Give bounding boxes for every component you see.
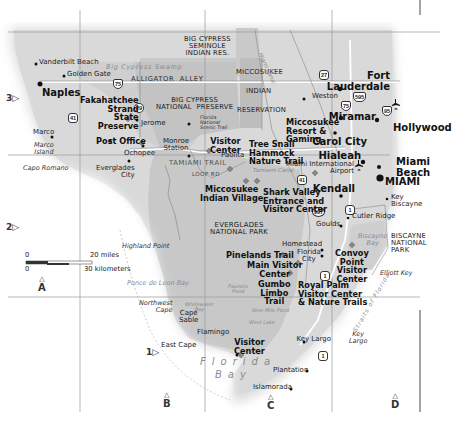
place-cutler-ridge: Cutler Ridge — [352, 213, 395, 220]
label-alligator-alley: ALLIGATOR ALLEY — [131, 76, 203, 83]
grid-row-marker-icon: ▷ — [12, 93, 19, 103]
label-reservation: RESERVATION — [237, 107, 286, 114]
label-ponce-de-leon-bay: Ponce de Leon Bay — [127, 280, 189, 287]
place-key-largo-town: Key Largo — [296, 336, 331, 343]
place-marco: Marco — [33, 129, 54, 136]
shield-us1-keys: 1 — [318, 351, 328, 361]
poi-convoy-point[interactable]: Convoy Point Visitor Center — [335, 249, 369, 283]
city-hollywood: Hollywood — [393, 123, 452, 134]
scale-zero-km: 0 — [25, 266, 29, 273]
place-goulds: Goulds — [316, 221, 340, 228]
place-plantation: Plantation — [273, 367, 308, 374]
poi-pinelands-trail[interactable]: Pinelands Trail — [226, 251, 294, 260]
label-west-lake: West Lake — [249, 320, 275, 325]
place-vanderbilt-beach: Vanderbilt Beach — [39, 59, 99, 66]
label-miccosukee: MICCOSUKEE — [236, 69, 283, 76]
poi-visitor-center-big-cypress[interactable]: Visitor Center — [210, 137, 241, 154]
label-florida-bay: Florida — [200, 357, 276, 368]
poi-flamingo-visitor-center[interactable]: Visitor Center — [234, 338, 265, 355]
grid-col-d: △D — [391, 393, 399, 411]
place-key-largo: Key Largo — [349, 331, 367, 345]
grid-col-a: △A — [38, 276, 46, 294]
label-nine-mile-pond: Nine Mile Pond — [252, 308, 289, 313]
label-big-cypress-swamp: Big Cypress Swamp — [106, 64, 182, 71]
label-biscayne-bay: Biscayne Bay — [358, 233, 387, 247]
shield-us41-east: 41 — [297, 175, 307, 185]
label-paurotis-pond: Paurotis Pond — [228, 284, 248, 295]
poi-miccosukee-indian-village[interactable]: Miccosukee Indian Village — [200, 185, 263, 202]
label-biscayne-park: BISCAYNE NATIONAL PARK — [391, 233, 427, 254]
place-weston: Weston — [312, 93, 338, 100]
grid-col-label: D — [391, 400, 399, 411]
poi-royal-palm[interactable]: Royal Palm Visitor Center & Nature Trail… — [298, 281, 367, 307]
poi-miccosukee-resort[interactable]: Miccosukee Resort & Gaming — [286, 118, 339, 144]
grid-col-label: C — [267, 401, 274, 412]
grid-col-c: △C — [267, 394, 274, 412]
label-tamiami-trail: TAMIAMI TRAIL — [169, 160, 227, 167]
place-capo-romano: Capo Romano — [23, 165, 69, 172]
grid-row-2: 2▷ — [6, 223, 19, 232]
shield-i595: 595 — [353, 92, 366, 102]
place-elliott-key: Elliott Key — [380, 270, 413, 277]
place-golden-gate: Golden Gate — [67, 71, 111, 78]
place-flamingo: Flamingo — [197, 329, 229, 336]
place-islamorada: Islamorada — [253, 384, 292, 391]
city-fort-lauderdale: Fort Lauderdale — [327, 71, 390, 92]
place-ochopee: Ochopee — [124, 150, 155, 157]
grid-row-marker-icon: ▷ — [12, 222, 19, 232]
place-northwest-cape: Northwest Cape — [139, 300, 172, 314]
grid-row-1: 1▷ — [146, 348, 159, 357]
city-naples: Naples — [42, 88, 80, 99]
label-indian: INDIAN — [246, 88, 271, 95]
grid-col-b: △B — [163, 392, 171, 410]
scale-km: 30 kilometers — [84, 266, 131, 273]
grid-col-label: A — [38, 283, 46, 294]
poi-gumbo-limbo-trail[interactable]: Gumbo Limbo Trail — [258, 280, 291, 306]
place-everglades-city: Everglades City — [96, 165, 135, 180]
place-jerome: Jerome — [141, 120, 166, 127]
place-marco-island: Marco Island — [34, 142, 54, 156]
grid-row-3: 3▷ — [6, 94, 19, 103]
place-highland-point: Highland Point — [122, 243, 169, 250]
scale-miles: 20 miles — [90, 252, 119, 259]
poi-post-office[interactable]: Post Office — [96, 137, 146, 146]
grid-row-marker-icon: ▷ — [152, 347, 159, 357]
label-everglades-park: EVERGLADES NATIONAL PARK — [210, 222, 268, 237]
label-loop-rd: LOOP RD — [192, 172, 220, 178]
label-florida-bay-2: Bay — [215, 370, 252, 381]
scale-zero-miles: 0 — [25, 252, 29, 259]
grid-col-label: B — [163, 399, 171, 410]
place-cape-sable: Cape Sable — [179, 310, 198, 325]
label-big-cypress-preserve: BIG CYPRESS NATIONAL PRESERVE — [156, 97, 233, 111]
label-scenic-trail: Florida National Scenic Trail — [200, 115, 227, 130]
poi-shark-valley[interactable]: Shark Valley Entrance and Visitor Center — [263, 188, 327, 214]
place-east-cape: East Cape — [161, 342, 196, 349]
place-key-biscayne: Key Biscayne — [391, 194, 422, 209]
poi-fakahatchee-preserve[interactable]: Fakahatchee Strand State Preserve — [80, 96, 139, 130]
city-miami-beach: Miami Beach — [396, 157, 430, 178]
label-seminole-reservation: BIG CYPRESS SEMINOLE INDIAN RES. — [184, 36, 231, 57]
poi-main-visitor-center[interactable]: Main Visitor Center — [247, 261, 302, 278]
city-miami: MIAMI — [385, 177, 420, 188]
shield-us41-west: 41 — [68, 113, 78, 123]
place-monroe-station: Monroe Station — [163, 138, 189, 153]
